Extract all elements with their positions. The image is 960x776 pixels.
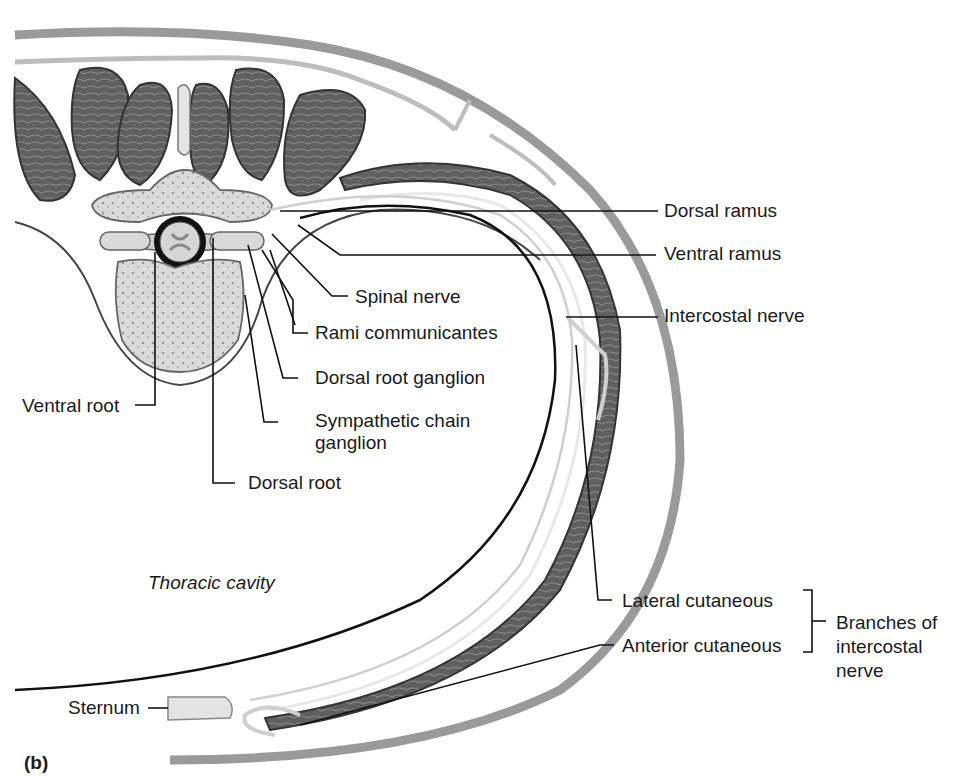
label-sympathetic-line2: ganglion xyxy=(315,432,470,454)
label-sternum: Sternum xyxy=(68,697,140,719)
label-branches-line1: Branches of xyxy=(836,611,937,635)
vertebral-arch xyxy=(92,170,272,222)
label-lateral-cutaneous: Lateral cutaneous xyxy=(622,590,773,612)
label-branches-line3: nerve xyxy=(836,659,937,683)
thoracic-wall-inner xyxy=(15,206,555,690)
label-sympathetic-line1: Sympathetic chain xyxy=(315,410,470,432)
label-sympathetic-chain-ganglion: Sympathetic chain ganglion xyxy=(315,410,470,454)
label-thoracic-cavity: Thoracic cavity xyxy=(148,572,275,594)
label-rami-communicantes: Rami communicantes xyxy=(315,322,498,344)
vertebral-body xyxy=(116,260,244,372)
label-ventral-root: Ventral root xyxy=(22,395,119,417)
label-anterior-cutaneous: Anterior cutaneous xyxy=(622,635,782,657)
label-dorsal-root: Dorsal root xyxy=(248,472,341,494)
sternum xyxy=(168,697,232,720)
label-spinal-nerve: Spinal nerve xyxy=(355,286,461,308)
label-ventral-ramus: Ventral ramus xyxy=(664,243,781,265)
label-dorsal-root-ganglion: Dorsal root ganglion xyxy=(315,367,485,389)
label-intercostal-nerve: Intercostal nerve xyxy=(664,305,804,327)
spinous-process xyxy=(178,85,190,155)
label-dorsal-ramus: Dorsal ramus xyxy=(664,200,777,222)
panel-label: (b) xyxy=(24,752,48,774)
label-branches-of-intercostal-nerve: Branches of intercostal nerve xyxy=(836,611,937,683)
label-branches-line2: intercostal xyxy=(836,635,937,659)
